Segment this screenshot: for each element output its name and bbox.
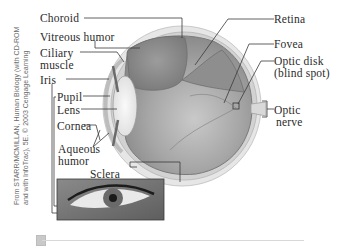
- eye-photo-inset: [57, 179, 164, 220]
- label-optic-disk-line2: (blind spot): [274, 67, 330, 79]
- label-optic-nerve-line1: Optic: [274, 104, 301, 116]
- label-cornea: Cornea: [57, 120, 91, 132]
- label-ciliary-muscle-line2: muscle: [40, 59, 74, 71]
- label-optic-nerve-line2: nerve: [276, 116, 303, 128]
- label-ciliary-muscle-line1: Ciliary: [40, 47, 73, 59]
- label-pupil: Pupil: [57, 91, 82, 103]
- label-iris: Iris: [40, 74, 56, 86]
- label-sclera: Sclera: [90, 168, 120, 180]
- eye-anatomy-figure: Choroid Vitreous humor Ciliary muscle Ir…: [0, 0, 355, 246]
- label-aqueous-humor-line2: humor: [58, 155, 89, 167]
- copyright-credit: From STARR/MCMILLAN, Human Biology (with…: [12, 15, 30, 205]
- label-retina: Retina: [274, 13, 305, 25]
- label-fovea: Fovea: [274, 38, 303, 50]
- label-optic-disk-line1: Optic disk: [274, 55, 324, 67]
- label-lens: Lens: [57, 104, 80, 116]
- label-aqueous-humor-line1: Aqueous: [58, 143, 100, 155]
- label-vitreous-humor: Vitreous humor: [40, 31, 115, 43]
- footer-divider: [42, 240, 304, 241]
- label-choroid: Choroid: [40, 12, 79, 24]
